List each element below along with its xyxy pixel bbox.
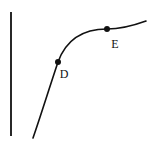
point-d-label: D xyxy=(60,67,69,81)
point-d-marker xyxy=(55,59,61,65)
point-e-marker xyxy=(104,26,110,32)
figure-container: D E xyxy=(0,0,149,146)
graph-svg: D E xyxy=(0,0,149,146)
curve-path xyxy=(33,21,146,138)
point-e-label: E xyxy=(111,37,118,51)
